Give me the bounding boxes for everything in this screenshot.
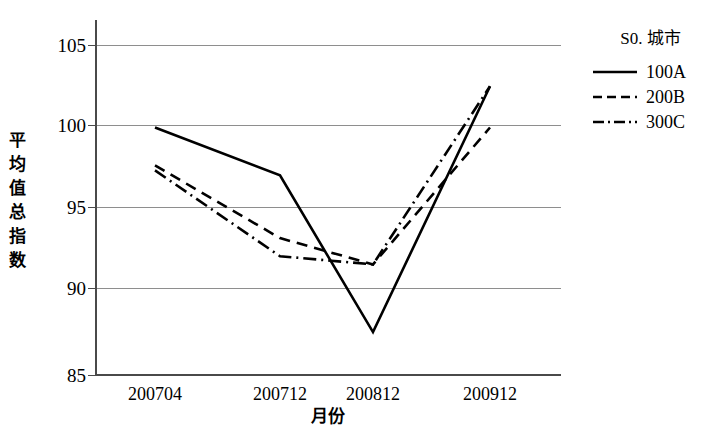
x-axis-line (95, 374, 561, 376)
x-tick-label: 200912 (430, 384, 550, 404)
legend-label: 200B (646, 88, 685, 106)
series-line-200B (155, 128, 490, 265)
legend-swatch-solid-icon (592, 65, 638, 79)
gridline-100 (95, 125, 561, 126)
gridline-95 (95, 207, 561, 208)
series-line-300C (155, 86, 490, 264)
x-tick-label: 200812 (313, 384, 433, 404)
y-axis-line (95, 20, 97, 376)
legend-swatch-dashdot-icon (592, 115, 638, 129)
line-chart: 平 均 值 总 指 数 105 100 95 90 85 200704 2007… (0, 0, 709, 431)
x-axis-title: 月份 (95, 406, 561, 426)
y-tick-label: 105 (26, 36, 86, 55)
x-tick-label: 200704 (95, 384, 215, 404)
legend-title: S0. 城市 (592, 28, 709, 50)
y-tick-label: 95 (26, 198, 86, 217)
series-line-100A (155, 86, 490, 332)
y-tick-label: 90 (26, 279, 86, 298)
gridline-90 (95, 288, 561, 289)
y-axis-tick-labels: 105 100 95 90 85 (22, 0, 86, 431)
chart-legend: S0. 城市 100A 200B 300C (592, 28, 709, 134)
y-tick-label: 85 (26, 366, 86, 385)
legend-swatch-dashed-icon (592, 90, 638, 104)
legend-label: 300C (646, 113, 685, 131)
legend-entry-100A: 100A (592, 59, 709, 84)
gridline-105 (95, 45, 561, 46)
legend-entry-200B: 200B (592, 84, 709, 109)
legend-label: 100A (646, 63, 686, 81)
legend-entry-300C: 300C (592, 109, 709, 134)
y-tick-label: 100 (26, 116, 86, 135)
